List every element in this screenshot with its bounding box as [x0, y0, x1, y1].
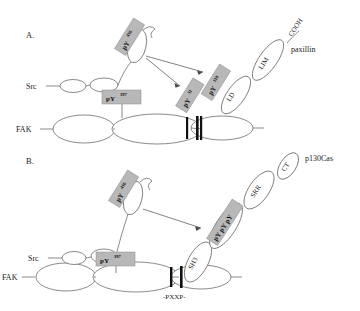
panel-b-letter: B. [26, 156, 34, 166]
diagram-canvas: A. FAK Src [0, 0, 360, 311]
fat-stripe-1-a [186, 117, 188, 139]
py397-sup-a: 397 [120, 92, 128, 97]
src-linker-a [86, 85, 90, 86]
fak-kinase-domain-a [112, 114, 202, 144]
panel-a: A. FAK Src [16, 17, 315, 144]
src-sh2-kinase-link-b [116, 214, 128, 255]
phospho-label-py397-b: pY 397 [96, 252, 135, 266]
src-sh3-domain-a [60, 80, 86, 93]
fat-stripe-2-b [180, 266, 183, 288]
fak-backbone-a: FAK [16, 114, 264, 144]
figure-container: A. FAK Src [0, 0, 360, 311]
py397-text-b: pY [100, 257, 109, 265]
py397-text-a: pY [106, 95, 115, 103]
fak-ferm-domain-a [53, 115, 115, 143]
fak-label-a: FAK [16, 125, 32, 134]
panel-b: B. FAK -PXXP- Src [2, 149, 333, 301]
src-sh3-domain-b [62, 252, 86, 265]
paxillin-molecule-a: LD LIM COOH paxillin [216, 17, 315, 118]
interaction-arrow-b [143, 209, 201, 231]
panel-a-letter: A. [26, 30, 34, 40]
paxillin-label-a: paxillin [291, 45, 315, 54]
fat-stripe-3-a [200, 116, 202, 140]
py397-sup-b: 397 [114, 254, 122, 259]
src-molecule-b: Src [28, 178, 152, 264]
pxxp-label-b: -PXXP- [163, 293, 186, 301]
arrow-to-py31-a [146, 58, 180, 86]
arrow-to-py118-a [146, 56, 203, 72]
src-label-b: Src [28, 254, 39, 263]
p130cas-label-b: p130Cas [305, 154, 333, 163]
fak-ferm-domain-b [36, 263, 96, 291]
fak-kinase-domain-b [93, 262, 179, 292]
paxillin-cooh-label-a: COOH [287, 17, 305, 38]
fat-stripe-2-a [196, 116, 199, 140]
fat-stripe-1-b [170, 267, 172, 287]
phospho-label-py31-a: pY 31 [176, 78, 205, 113]
src-label-a: Src [26, 82, 37, 91]
src-sh2-kinase-link-a [118, 62, 131, 85]
p130cas-molecule-b: SH3 SH2BD SRR CT p130Cas [179, 149, 333, 286]
fak-label-b: FAK [2, 273, 18, 282]
arrow-to-sh2bd-b [143, 209, 201, 228]
phospho-label-py397-a: pY 397 [102, 90, 141, 104]
src-linker-b [86, 257, 91, 258]
